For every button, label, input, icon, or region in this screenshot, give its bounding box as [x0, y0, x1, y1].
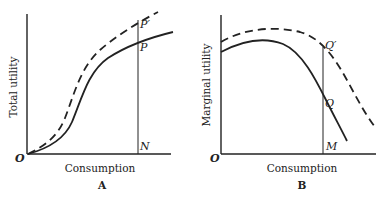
panel-a-x-label: Consumption: [65, 162, 136, 174]
panel-b-caption: B: [298, 179, 307, 191]
panel-a-label-n: N: [139, 140, 150, 153]
panel-b-x-label: Consumption: [267, 162, 338, 174]
panel-a-caption: A: [97, 179, 107, 191]
panel-a-label-p-prime: P′: [139, 18, 150, 31]
panel-b-label-q: Q: [325, 97, 334, 110]
panel-a-y-label: Total utility: [7, 56, 19, 117]
panel-a: P′ P N O Total utility Consumption A: [7, 12, 173, 191]
panel-a-label-p: P: [139, 41, 148, 54]
panel-b-label-m: M: [325, 140, 338, 153]
panel-b: Q′ Q M O Marginal utility Consumption B: [200, 15, 376, 191]
panel-b-y-label: Marginal utility: [200, 43, 212, 126]
panel-b-label-q-prime: Q′: [325, 39, 337, 52]
panel-b-origin-label: O: [210, 152, 220, 165]
panel-a-origin-label: O: [15, 152, 25, 165]
utility-diagram: P′ P N O Total utility Consumption A Q′ …: [0, 0, 391, 197]
panel-b-solid-curve: [221, 40, 347, 141]
